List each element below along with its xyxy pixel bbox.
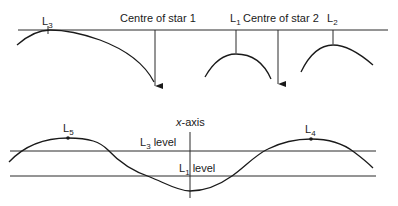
potential-curve-right bbox=[301, 45, 373, 72]
l3-label: L3 bbox=[42, 15, 53, 30]
l2-label: L2 bbox=[327, 12, 338, 27]
l3-level-label: L3 level bbox=[140, 136, 176, 151]
top-potential-diagram: L3 Centre of star 1 L1 Centre of star 2 … bbox=[17, 12, 388, 86]
centre-star1-label: Centre of star 1 bbox=[120, 12, 196, 24]
x-axis-label: x-axis bbox=[175, 116, 205, 128]
l1-level-label: L1 level bbox=[179, 162, 215, 177]
l4-label: L4 bbox=[305, 123, 316, 138]
l1-label: L1 bbox=[230, 12, 241, 27]
lagrange-points-diagram: L3 Centre of star 1 L1 Centre of star 2 … bbox=[0, 0, 398, 206]
potential-curve-left bbox=[17, 30, 154, 82]
l5-label: L5 bbox=[63, 122, 74, 137]
centre-star2-label: Centre of star 2 bbox=[243, 12, 319, 24]
potential-curve-middle bbox=[205, 54, 271, 79]
bottom-potential-diagram: x-axis L3 level L1 level L5 L4 bbox=[9, 116, 376, 198]
